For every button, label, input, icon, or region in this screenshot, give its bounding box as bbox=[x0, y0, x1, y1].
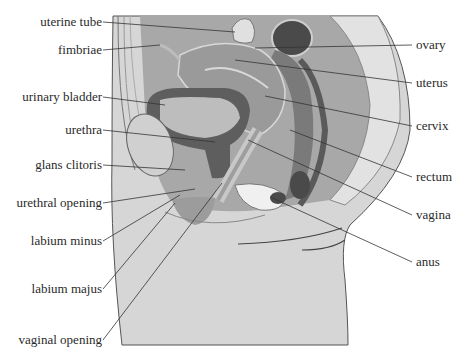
label-anus: anus bbox=[416, 255, 440, 269]
label-urethra: urethra bbox=[65, 123, 102, 137]
label-glans-clitoris: glans clitoris bbox=[35, 158, 102, 172]
label-uterine-tube: uterine tube bbox=[40, 15, 102, 29]
label-rectum: rectum bbox=[416, 170, 452, 184]
label-uterus: uterus bbox=[416, 76, 448, 90]
label-vaginal-opening: vaginal opening bbox=[19, 333, 102, 347]
label-labium-minus: labium minus bbox=[31, 234, 102, 248]
label-urinary-bladder: urinary bladder bbox=[22, 90, 102, 104]
label-urethral-opening: urethral opening bbox=[16, 196, 102, 210]
label-ovary: ovary bbox=[416, 38, 446, 52]
ovary-shape bbox=[272, 20, 312, 56]
label-labium-majus: labium majus bbox=[32, 282, 102, 296]
label-cervix: cervix bbox=[416, 119, 448, 133]
label-fimbriae: fimbriae bbox=[58, 43, 102, 57]
label-vagina: vagina bbox=[416, 208, 451, 222]
